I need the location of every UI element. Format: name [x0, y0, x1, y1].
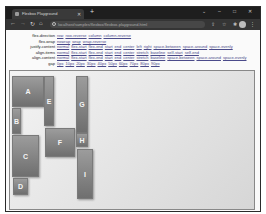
- minimize-button[interactable]: –: [218, 8, 221, 14]
- bookmark-star-icon[interactable]: ☆: [222, 21, 226, 27]
- maximize-button[interactable]: □: [233, 8, 236, 14]
- option-link[interactable]: 50px: [108, 61, 117, 67]
- browser-window: Flexbox Playground ✕ + ⌄ – □ ✕ ← → ↻ ⌂ l…: [5, 6, 261, 212]
- extensions-icon[interactable]: ✱: [233, 21, 237, 27]
- browser-toolbar: ← → ↻ ⌂ localhost/samples/flexbox/flexbo…: [6, 19, 260, 30]
- flex-item-c[interactable]: C: [12, 135, 39, 177]
- flex-item-b[interactable]: B: [12, 108, 21, 134]
- option-link[interactable]: 60px: [119, 61, 128, 67]
- option-link[interactable]: space-between: [167, 55, 194, 61]
- home-icon[interactable]: ⌂: [39, 20, 43, 26]
- option-link[interactable]: 0px: [57, 61, 63, 67]
- tab-bar: Flexbox Playground ✕ + ⌄ – □ ✕: [6, 7, 260, 19]
- profile-avatar[interactable]: [239, 21, 246, 28]
- option-link[interactable]: 40px: [98, 61, 107, 67]
- option-link[interactable]: space-around: [196, 55, 220, 61]
- option-link[interactable]: 70px: [130, 61, 139, 67]
- flex-item-g[interactable]: G: [76, 76, 88, 133]
- flex-item-f[interactable]: F: [45, 128, 75, 157]
- new-tab-button[interactable]: +: [90, 8, 94, 15]
- close-tab-icon[interactable]: ✕: [77, 9, 81, 19]
- address-text: localhost/samples/flexbox/flexbox-playgr…: [58, 22, 147, 27]
- option-link[interactable]: space-evenly: [223, 55, 247, 61]
- tab-title: Flexbox Playground: [22, 11, 57, 16]
- flex-item-a[interactable]: A: [12, 76, 44, 107]
- menu-icon[interactable]: ⋮: [250, 21, 255, 27]
- site-info-icon[interactable]: [52, 22, 56, 26]
- share-icon[interactable]: ⇪: [211, 21, 215, 27]
- browser-tab[interactable]: Flexbox Playground ✕: [12, 9, 84, 19]
- option-link[interactable]: 30px: [87, 61, 96, 67]
- reload-icon[interactable]: ↻: [30, 20, 35, 27]
- option-link[interactable]: space-evenly: [209, 44, 233, 50]
- back-icon[interactable]: ←: [10, 20, 16, 26]
- flex-item-h[interactable]: H: [76, 133, 88, 147]
- address-bar[interactable]: localhost/samples/flexbox/flexbox-playgr…: [50, 21, 205, 28]
- flex-item-d[interactable]: D: [13, 178, 28, 195]
- close-window-button[interactable]: ✕: [248, 8, 252, 14]
- tab-list-icon[interactable]: ⌄: [202, 8, 206, 14]
- favicon-icon: [15, 12, 19, 16]
- option-link[interactable]: 90px: [151, 61, 160, 67]
- page-content: flex-directionrowrow-reversecolumncolumn…: [6, 30, 260, 211]
- flex-container: A B C D E F G H I: [9, 70, 255, 210]
- option-link[interactable]: 80px: [140, 61, 149, 67]
- flex-controls: flex-directionrowrow-reversecolumncolumn…: [8, 33, 249, 67]
- control-label: gap: [8, 61, 57, 67]
- option-link[interactable]: 20px: [76, 61, 85, 67]
- control-row-gap: gap0px10px20px30px40px50px60px70px80px90…: [8, 61, 249, 67]
- flex-item-e[interactable]: E: [44, 76, 54, 126]
- option-link[interactable]: 10px: [65, 61, 74, 67]
- option-link[interactable]: column-reverse: [103, 33, 131, 39]
- flex-item-i[interactable]: I: [77, 149, 93, 199]
- forward-icon[interactable]: →: [20, 20, 26, 26]
